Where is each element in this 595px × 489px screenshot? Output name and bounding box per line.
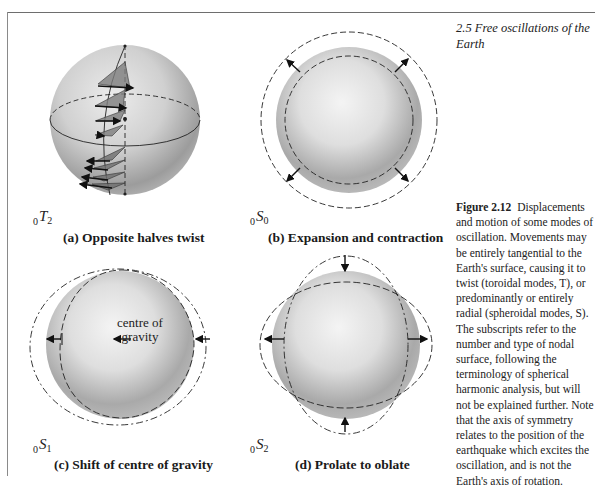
panel-caption-a: (a) Opposite halves twist [63,230,204,246]
cog-line-1: centre of [95,316,185,330]
sphere-d-radial-s2 [260,255,432,434]
mode-label-c: 0S1 [33,436,52,455]
panel-caption-c: (c) Shift of centre of gravity [54,457,213,473]
sphere-c-radial-s1 [30,269,210,425]
mode-label-a: 0T2 [33,208,52,227]
figure-caption-text: Displacements and motion of some modes o… [456,201,594,487]
figure-caption: Figure 2.12 Displacements and motion of … [456,200,594,489]
centre-of-gravity-label: centre of gravity [95,316,185,344]
panel-caption-d: (d) Prolate to oblate [295,457,410,473]
panel-caption-b: (b) Expansion and contraction [268,230,443,246]
figure-number: Figure 2.12 [456,201,511,213]
sphere-a-toroidal [50,44,200,195]
sphere-b-radial-s0 [261,32,437,208]
mode-label-d: 0S2 [250,436,269,455]
mode-label-b: 0S0 [250,208,269,227]
cog-line-2: gravity [95,330,185,344]
